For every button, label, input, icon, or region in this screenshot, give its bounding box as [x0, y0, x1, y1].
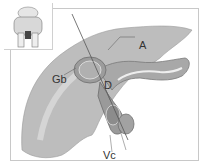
- orientation-thumbnail: [4, 3, 53, 50]
- label-gb: Gb: [52, 74, 67, 85]
- label-a: A: [139, 40, 146, 51]
- body-outline-icon: [4, 3, 52, 49]
- label-vc: Vc: [103, 150, 116, 161]
- label-d: D: [104, 80, 112, 91]
- gallbladder-lumen: [79, 61, 101, 79]
